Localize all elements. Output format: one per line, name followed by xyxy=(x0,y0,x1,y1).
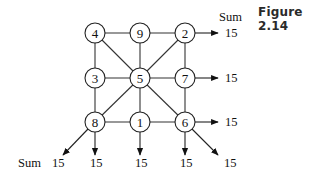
node-4: 4 xyxy=(85,23,105,43)
col-3-sum-value: 15 xyxy=(180,156,193,170)
node-number: 5 xyxy=(137,71,144,86)
row-2-sum-value: 15 xyxy=(225,71,238,85)
node-number: 4 xyxy=(92,26,99,41)
main-diagonal-sum-value: 15 xyxy=(224,156,237,170)
top-sum-heading: Sum xyxy=(219,10,242,24)
node-number: 1 xyxy=(137,115,144,130)
main-diagonal-sum-arrow xyxy=(192,129,218,155)
node-7: 7 xyxy=(175,68,195,88)
node-number: 2 xyxy=(182,26,189,41)
node-number: 9 xyxy=(137,26,144,41)
node-9: 9 xyxy=(130,23,150,43)
node-1: 1 xyxy=(130,112,150,132)
node-number: 3 xyxy=(92,71,99,86)
bottom-sum-heading: Sum xyxy=(18,156,41,170)
node-6: 6 xyxy=(175,112,195,132)
node-3: 3 xyxy=(85,68,105,88)
nodes: 492357816 xyxy=(85,23,195,132)
node-8: 8 xyxy=(85,112,105,132)
col-1-sum-value: 15 xyxy=(90,156,103,170)
node-number: 6 xyxy=(182,115,189,130)
col-2-sum-value: 15 xyxy=(135,156,148,170)
node-5: 5 xyxy=(130,68,150,88)
figure-label: Figure 2.14 xyxy=(258,5,334,33)
row-1-sum-value: 15 xyxy=(225,26,238,40)
row-3-sum-value: 15 xyxy=(225,115,238,129)
node-number: 8 xyxy=(92,115,99,130)
node-number: 7 xyxy=(182,71,189,86)
anti-diagonal-sum-arrow xyxy=(63,129,88,155)
node-2: 2 xyxy=(175,23,195,43)
anti-diagonal-sum-value: 15 xyxy=(52,156,65,170)
